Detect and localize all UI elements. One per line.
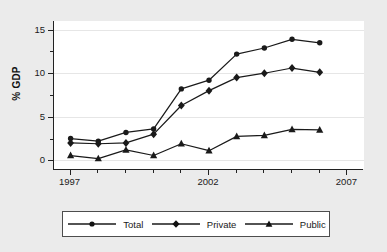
chart-figure: % GDP 051015 Total Private <box>0 0 387 252</box>
legend-label-total: Total <box>123 219 143 230</box>
data-point-circle <box>289 37 294 42</box>
x-tick-minor <box>236 170 237 173</box>
data-point-diamond <box>206 87 213 95</box>
x-tick-label: 1997 <box>50 177 90 187</box>
legend-marker-diamond-icon <box>150 218 202 230</box>
data-point-triangle <box>122 146 129 153</box>
plot-area <box>53 21 364 169</box>
x-tick-minor <box>319 170 320 173</box>
x-tick-minor <box>97 170 98 173</box>
y-tick-label: 10 <box>34 68 45 78</box>
data-point-diamond <box>289 64 296 72</box>
x-tick-major <box>346 170 347 175</box>
data-point-diamond <box>261 69 268 77</box>
legend-marker-triangle-icon <box>243 218 295 230</box>
x-tick-minor <box>291 170 292 173</box>
y-axis: 051015 <box>0 0 53 190</box>
legend-marker-circle-icon <box>66 218 118 230</box>
y-tick-label: 5 <box>40 112 45 122</box>
data-point-circle <box>317 40 322 45</box>
data-point-circle <box>179 86 184 91</box>
series-line-total <box>71 39 320 141</box>
chart-legend: Total Private Public <box>62 211 330 237</box>
x-tick-minor <box>180 170 181 173</box>
legend-item-public[interactable]: Public <box>243 218 326 230</box>
x-tick-minor <box>263 170 264 173</box>
x-tick-label: 2002 <box>188 177 228 187</box>
y-tick-label: 15 <box>34 25 45 35</box>
x-tick-minor <box>153 170 154 173</box>
data-point-diamond <box>316 68 323 76</box>
data-point-diamond <box>233 74 240 82</box>
series-line-private <box>71 68 320 144</box>
x-tick-label: 2007 <box>326 177 366 187</box>
data-point-triangle <box>178 140 185 147</box>
data-point-diamond <box>123 139 130 147</box>
data-point-circle <box>206 78 211 83</box>
y-tick-label: 0 <box>40 155 45 165</box>
x-tick-major <box>70 170 71 175</box>
data-point-circle <box>123 130 128 135</box>
legend-item-total[interactable]: Total <box>66 218 143 230</box>
legend-label-public: Public <box>300 219 326 230</box>
data-point-diamond <box>67 139 74 147</box>
x-tick-major <box>208 170 209 175</box>
x-tick-minor <box>125 170 126 173</box>
data-point-triangle <box>67 152 74 159</box>
legend-label-private: Private <box>207 219 237 230</box>
data-point-circle <box>262 45 267 50</box>
series-lines <box>54 21 364 169</box>
data-point-circle <box>234 51 239 56</box>
legend-item-private[interactable]: Private <box>150 218 237 230</box>
